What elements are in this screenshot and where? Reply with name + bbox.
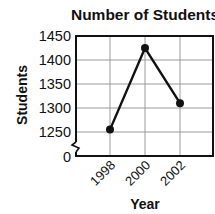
y-tick-label: 1350 <box>39 76 71 92</box>
y-tick-label: 1250 <box>39 124 71 140</box>
data-point-marker <box>141 44 149 52</box>
data-point-marker <box>106 126 114 134</box>
x-tick-label: 2002 <box>157 158 188 189</box>
axis-break-icon <box>72 142 79 152</box>
chart-title: Number of Students <box>71 6 215 23</box>
line-chart: Number of Students 012501300135014001450… <box>0 0 215 214</box>
x-tick-label: 1998 <box>87 158 118 189</box>
y-tick-label: 1450 <box>39 28 71 44</box>
y-tick-label: 1300 <box>39 100 71 116</box>
x-axis-ticks: 199820002002 <box>87 158 188 189</box>
x-tick-label: 2000 <box>122 158 153 189</box>
data-point-marker <box>176 99 184 107</box>
y-axis-ticks: 012501300135014001450 <box>39 28 71 165</box>
x-axis-label: Year <box>130 196 160 212</box>
y-tick-label: 0 <box>63 149 71 165</box>
y-tick-label: 1400 <box>39 52 71 68</box>
y-axis-label: Students <box>14 65 30 125</box>
gridlines <box>76 36 213 156</box>
